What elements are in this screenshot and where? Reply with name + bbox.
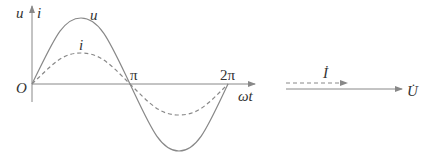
waveform-diagram: u i O ωt π 2π u i İ U̇ [0, 0, 429, 165]
voltage-phasor-label: U̇ [407, 83, 419, 99]
i-curve-label: i [79, 37, 83, 53]
current-phasor-label: İ [322, 65, 329, 81]
origin-label: O [16, 80, 27, 96]
x-axis-label: ωt [238, 88, 254, 104]
y-label-i: i [37, 5, 41, 21]
y-label-u: u [16, 5, 24, 21]
u-curve-label: u [90, 7, 98, 23]
tick-2pi: 2π [220, 67, 236, 83]
tick-pi: π [130, 67, 138, 83]
